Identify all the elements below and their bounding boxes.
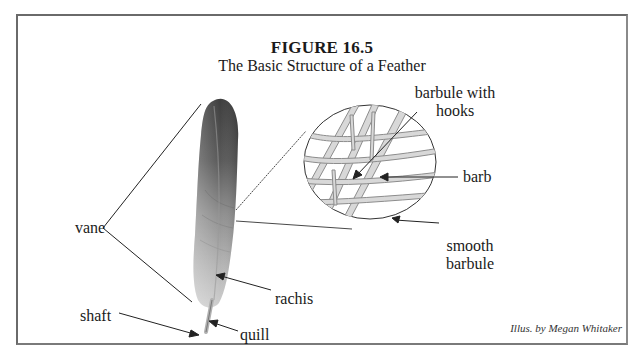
label-smooth-barbule: smooth barbule — [430, 237, 510, 273]
label-quill: quill — [240, 326, 269, 344]
vane-line-top — [103, 104, 201, 228]
zoom-connector-bottom — [236, 221, 352, 229]
label-barb: barb — [463, 168, 491, 186]
label-barbule-with-hooks-line2: hooks — [405, 102, 505, 120]
label-smooth-barbule-line1: smooth — [430, 237, 510, 255]
label-barbule-with-hooks: barbule with hooks — [405, 84, 505, 120]
label-barbule-with-hooks-line1: barbule with — [405, 84, 505, 102]
label-vane: vane — [75, 219, 105, 237]
zoom-connector-top — [236, 131, 306, 210]
label-smooth-barbule-line2: barbule — [430, 255, 510, 273]
illustration-credit: Illus. by Megan Whitaker — [510, 322, 622, 334]
feather-illustration — [193, 99, 238, 332]
label-rachis: rachis — [275, 290, 313, 308]
vane-line-bottom — [103, 228, 192, 302]
label-shaft: shaft — [80, 307, 111, 325]
